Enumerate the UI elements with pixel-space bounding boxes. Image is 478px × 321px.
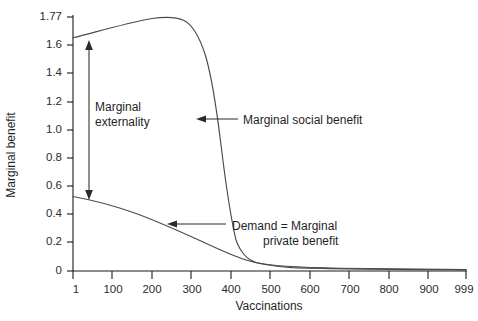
xtick-label-400: 400 xyxy=(221,284,240,296)
xtick-label-600: 600 xyxy=(300,284,319,296)
xtick-label-700: 700 xyxy=(340,284,359,296)
x-tick-marks xyxy=(73,271,466,279)
annotation-demand-line2: private benefit xyxy=(232,234,338,249)
annotation-marginal-externality: Marginal externality xyxy=(95,100,187,130)
ytick-label-0-4: 0.4 xyxy=(18,208,62,220)
ytick-label-0-2: 0.2 xyxy=(18,236,62,248)
x-axis-title: Vaccinations xyxy=(235,300,302,312)
annotation-demand-line1: Demand = Marginal xyxy=(232,219,337,233)
marginal-externality-arrow xyxy=(85,40,93,200)
ytick-label-0-6: 0.6 xyxy=(18,180,62,192)
ytick-label-1-0: 1.0 xyxy=(18,124,62,136)
ytick-label-1-6: 1.6 xyxy=(18,39,62,51)
ytick-label-1-4: 1.4 xyxy=(18,67,62,79)
xtick-label-200: 200 xyxy=(142,284,161,296)
marginal-benefit-chart: 1.77 1.6 1.4 1.2 1.0 0.8 0.6 0.4 0.2 0 1… xyxy=(0,0,478,321)
annotation-marginal-social-benefit: Marginal social benefit xyxy=(243,113,362,128)
xtick-label-1: 1 xyxy=(73,284,79,296)
y-axis-title: Marginal benefit xyxy=(5,95,17,215)
xtick-label-300: 300 xyxy=(182,284,201,296)
ytick-label-1-2: 1.2 xyxy=(18,96,62,108)
xtick-label-100: 100 xyxy=(103,284,122,296)
xtick-label-500: 500 xyxy=(261,284,280,296)
y-tick-marks xyxy=(67,17,73,271)
annotation-demand-marginal-private-benefit: Demand = Marginalprivate benefit xyxy=(232,219,338,249)
demand-arrow xyxy=(167,220,226,227)
plot-canvas xyxy=(0,0,478,321)
xtick-label-900: 900 xyxy=(419,284,438,296)
ytick-label-1-77: 1.77 xyxy=(18,11,62,23)
xtick-label-999: 999 xyxy=(454,284,473,296)
xtick-label-800: 800 xyxy=(379,284,398,296)
ytick-label-0: 0 xyxy=(18,265,62,277)
ytick-label-0-8: 0.8 xyxy=(18,152,62,164)
